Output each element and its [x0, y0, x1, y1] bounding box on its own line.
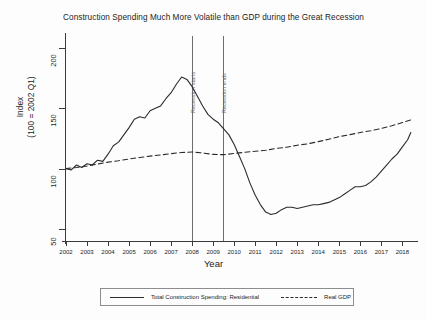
x-tick-2009 [213, 241, 214, 246]
legend-label-gdp: Real GDP [324, 294, 351, 300]
y-tick-150 [59, 108, 65, 109]
x-tick-2015 [339, 241, 340, 246]
legend-label-construction: Total Construction Spending: Residential [151, 294, 259, 300]
legend-entry-construction: Total Construction Spending: Residential [110, 294, 259, 300]
y-tick-100 [59, 169, 65, 170]
x-tick-2004 [108, 241, 109, 246]
series-construction-spending [66, 77, 411, 214]
y-tick-50 [59, 229, 65, 230]
x-tick-2011 [255, 241, 256, 246]
y-tick-label-100: 100 [49, 168, 58, 194]
chart-title: Construction Spending Much More Volatile… [0, 13, 427, 22]
x-tick-2005 [129, 241, 130, 246]
y-tick-label-150: 150 [49, 108, 58, 134]
x-tick-2007 [171, 241, 172, 246]
series-real-gdp [66, 120, 411, 169]
y-axis-label: Index (100 = 2002 Q1) [15, 47, 37, 167]
x-axis-line [62, 241, 418, 242]
y-tick-label-200: 200 [49, 48, 58, 74]
series-canvas [66, 36, 415, 241]
legend-entry-gdp: Real GDP [281, 294, 351, 300]
y-axis-label-line1: Index [15, 97, 25, 118]
x-tick-2012 [276, 241, 277, 246]
legend-swatch-solid [110, 297, 144, 298]
chart-figure: Construction Spending Much More Volatile… [0, 0, 427, 320]
x-tick-2017 [381, 241, 382, 246]
x-axis-label: Year [0, 258, 427, 269]
y-axis-label-line2: (100 = 2002 Q1) [26, 76, 36, 137]
plot-area [66, 36, 415, 241]
x-tick-2010 [234, 241, 235, 246]
x-tick-2018 [402, 241, 403, 246]
y-tick-200 [59, 48, 65, 49]
x-tick-2008 [192, 241, 193, 246]
x-tick-2013 [297, 241, 298, 246]
x-tick-label-2018: 2018 [389, 249, 415, 255]
x-tick-2006 [150, 241, 151, 246]
chart-legend: Total Construction Spending: Residential… [100, 288, 354, 306]
x-tick-2016 [360, 241, 361, 246]
x-tick-2014 [318, 241, 319, 246]
x-tick-2003 [87, 241, 88, 246]
legend-swatch-dashed [281, 297, 317, 298]
x-tick-2002 [66, 241, 67, 246]
